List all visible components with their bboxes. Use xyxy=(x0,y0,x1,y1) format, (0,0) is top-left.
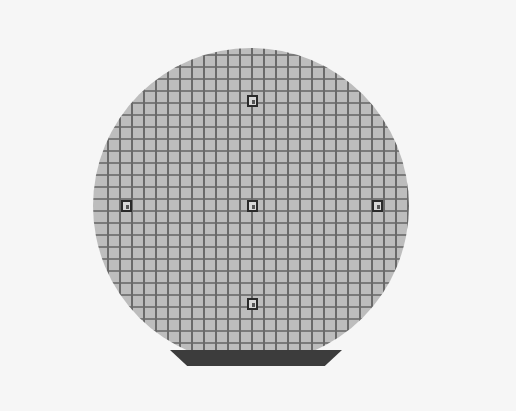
test-die-marker-right xyxy=(372,200,383,212)
test-die-marker-bottom xyxy=(247,298,258,310)
test-die-marker-left xyxy=(121,200,132,212)
test-die-marker-center xyxy=(247,200,258,212)
test-die-marker-top xyxy=(247,95,258,107)
wafer-flat-band xyxy=(170,350,342,366)
